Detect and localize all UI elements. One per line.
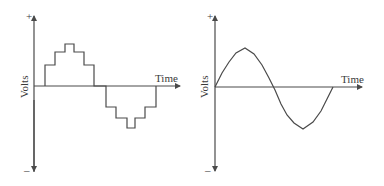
plus-label: + — [207, 10, 213, 22]
stepped-wave-diagram: + – Time Volts — [18, 10, 180, 176]
minus-label: – — [204, 164, 211, 176]
y-axis-label: Volts — [198, 76, 210, 98]
y-axis-label: Volts — [18, 76, 30, 98]
sine-wave-diagram: + – Time Volts — [198, 10, 364, 176]
minus-label: – — [23, 164, 30, 176]
x-axis-label: Time — [155, 72, 178, 84]
sine-waveform — [215, 48, 333, 129]
plus-label: + — [26, 10, 32, 22]
waveform-diagrams: + – Time Volts + – Time Volts — [0, 0, 384, 186]
x-axis-label: Time — [341, 73, 364, 85]
